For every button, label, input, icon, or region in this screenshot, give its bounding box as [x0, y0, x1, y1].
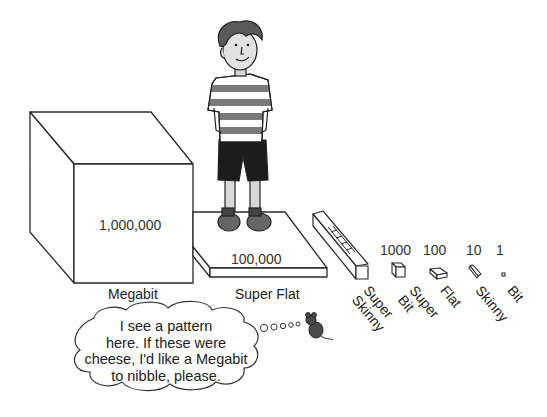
flat-piece	[430, 268, 447, 279]
super-flat-value: 100,000	[231, 252, 282, 266]
megabit-label: Megabit	[108, 287, 158, 301]
boy-figure	[208, 21, 272, 231]
skinny-piece	[469, 265, 481, 278]
megabit-value: 1,000,000	[99, 218, 161, 232]
super-flat-label: Super Flat	[235, 287, 300, 301]
super-bit-value: 1000	[380, 243, 411, 257]
thought-dots	[260, 322, 300, 332]
super-bit-cube	[392, 263, 405, 277]
bit-value: 1	[496, 243, 504, 257]
mouse-figure	[306, 313, 333, 340]
flat-value: 100	[423, 243, 446, 257]
thought-bubble-text: I see a pattern here. If these were chee…	[78, 318, 254, 384]
megabit-cube	[30, 112, 193, 283]
bit-piece	[502, 273, 505, 276]
skinny-value: 10	[466, 243, 482, 257]
